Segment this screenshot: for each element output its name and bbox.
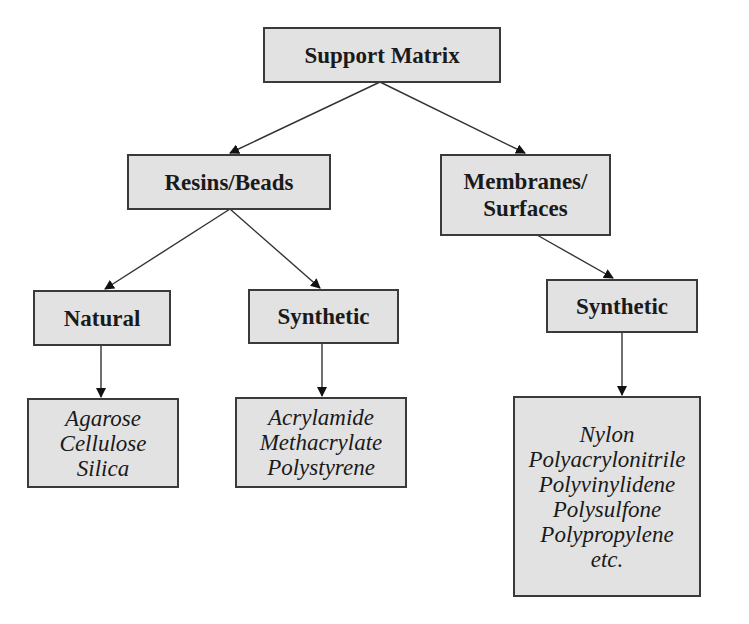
node-label: Synthetic: [576, 293, 668, 320]
node-label: Support Matrix: [304, 42, 459, 69]
material-item: Cellulose: [60, 431, 147, 456]
node-resins-beads: Resins/Beads: [127, 154, 331, 210]
edge-membranes-synthetic: [537, 235, 613, 278]
leaf-synthetic-resin-materials: Acrylamide Methacrylate Polystyrene: [235, 397, 407, 488]
node-membranes-surfaces: Membranes/ Surfaces: [440, 154, 611, 236]
material-item: Methacrylate: [260, 430, 383, 455]
node-natural: Natural: [33, 290, 171, 346]
material-item: Polysulfone: [553, 497, 662, 522]
material-item: Acrylamide: [268, 405, 374, 430]
material-item: Polypropylene: [540, 522, 673, 547]
material-item: etc.: [591, 547, 624, 572]
edge-resins-synthetic: [230, 209, 320, 288]
node-support-matrix: Support Matrix: [263, 27, 501, 83]
edge-resins-natural: [105, 209, 230, 289]
node-synthetic-membranes: Synthetic: [546, 279, 698, 333]
node-label-line: Surfaces: [483, 195, 567, 222]
material-item: Polyvinylidene: [539, 472, 676, 497]
node-synthetic-resins: Synthetic: [248, 289, 399, 344]
edge-root-membranes: [380, 82, 525, 153]
node-label: Synthetic: [278, 303, 370, 330]
material-item: Polyacrylonitrile: [528, 447, 685, 472]
node-label: Natural: [64, 305, 141, 332]
leaf-synthetic-membrane-materials: Nylon Polyacrylonitrile Polyvinylidene P…: [513, 396, 701, 597]
material-item: Silica: [77, 456, 129, 481]
material-item: Agarose: [65, 406, 141, 431]
leaf-natural-materials: Agarose Cellulose Silica: [27, 398, 179, 488]
node-label-line: Membranes/: [464, 168, 588, 195]
edge-root-resins: [230, 82, 380, 153]
material-item: Polystyrene: [267, 455, 375, 480]
node-label: Resins/Beads: [164, 169, 293, 196]
material-item: Nylon: [580, 422, 635, 447]
